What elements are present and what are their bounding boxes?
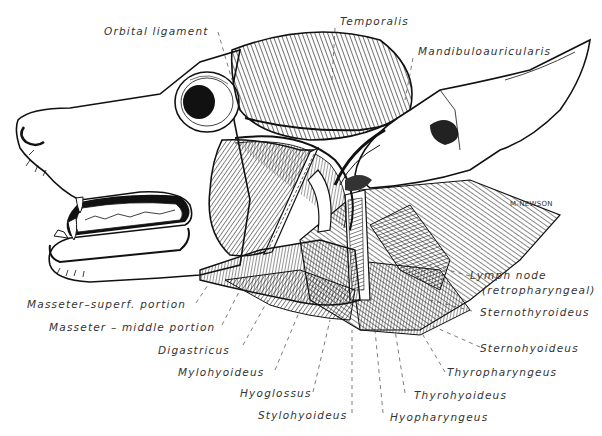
label-hyoglossus: Hyoglossus [240, 387, 312, 399]
artist-signature: M-NEWSON [510, 200, 553, 208]
label-sternohyoideus: Sternohyoideus [480, 342, 579, 354]
label-thyrohyoideus: Thyrohyoideus [414, 389, 507, 401]
label-thyropharyngeus: Thyropharyngeus [447, 366, 557, 378]
label-stylohyoideus: Stylohyoideus [258, 409, 347, 421]
temporalis-muscle [232, 32, 412, 140]
eye [175, 72, 239, 132]
label-digastricus: Digastricus [158, 344, 230, 356]
label-mylohyoideus: Mylohyoideus [178, 366, 264, 378]
anatomy-figure: Orbital ligament Temporalis Mandibuloaur… [0, 0, 602, 436]
label-lymph-node-retropharyngeal: (retropharyngeal) [482, 284, 596, 296]
label-sternothyroideus: Sternothyroideus [480, 306, 590, 318]
label-lymph-node: Lymph node [470, 269, 547, 281]
label-orbital-ligament: Orbital ligament [104, 25, 209, 37]
label-masseter-middle-portion: Masseter – middle portion [49, 321, 215, 333]
label-hyopharyngeus: Hyopharyngeus [390, 411, 488, 423]
label-temporalis: Temporalis [340, 15, 409, 27]
label-mandibuloauricularis: Mandibuloauricularis [418, 45, 551, 57]
label-masseter-superficial-portion: Masseter–superf. portion [27, 298, 186, 310]
